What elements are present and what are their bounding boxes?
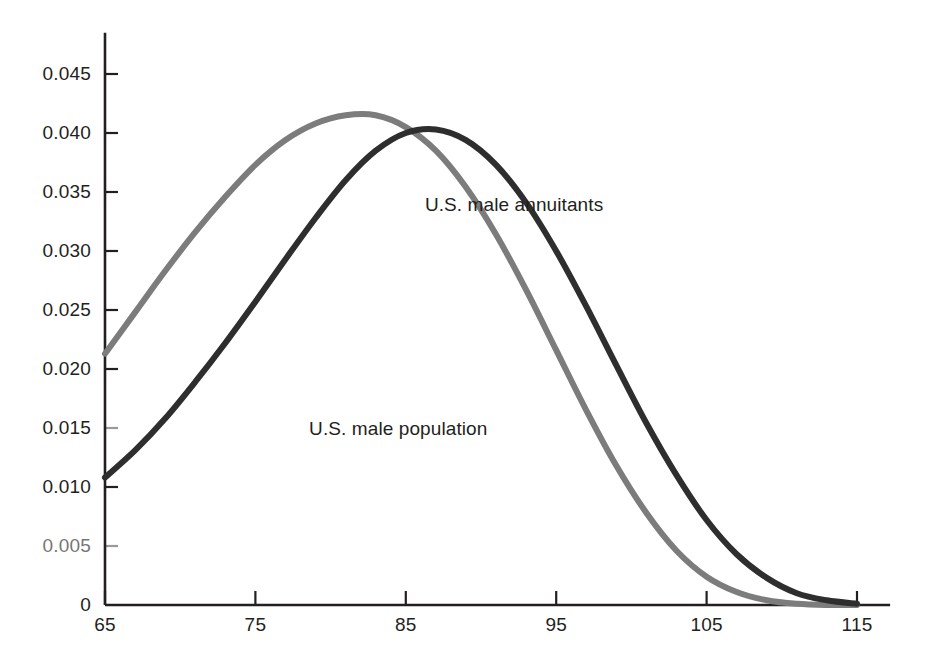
- x-tick-label: 85: [395, 614, 417, 636]
- y-tick-label: 0.040: [0, 122, 91, 144]
- y-tick-label: 0.015: [0, 417, 91, 439]
- y-tick-label: 0.030: [0, 240, 91, 262]
- y-tick-label: 0.035: [0, 181, 91, 203]
- series-label-us-male-annuitants: U.S. male annuitants: [425, 194, 603, 216]
- chart-figure: 00.0050.0100.0150.0200.0250.0300.0350.04…: [0, 0, 948, 667]
- y-tick-label: 0.020: [0, 358, 91, 380]
- y-tick-label: 0.025: [0, 299, 91, 321]
- y-tick-label: 0.010: [0, 476, 91, 498]
- chart-series-lines: [105, 114, 857, 605]
- series-line-u-s-male-population: [105, 114, 857, 605]
- x-tick-label: 75: [245, 614, 267, 636]
- x-tick-label: 95: [545, 614, 567, 636]
- x-tick-label: 115: [842, 614, 873, 636]
- x-tick-label: 65: [94, 614, 116, 636]
- x-tick-label: 105: [690, 614, 722, 636]
- y-tick-label: 0: [0, 594, 91, 616]
- y-tick-label: 0.005: [0, 535, 91, 557]
- y-tick-label: 0.045: [0, 63, 91, 85]
- chart-axes: [105, 33, 890, 605]
- series-label-us-male-population: U.S. male population: [309, 418, 487, 440]
- chart-plot-area: [0, 0, 948, 667]
